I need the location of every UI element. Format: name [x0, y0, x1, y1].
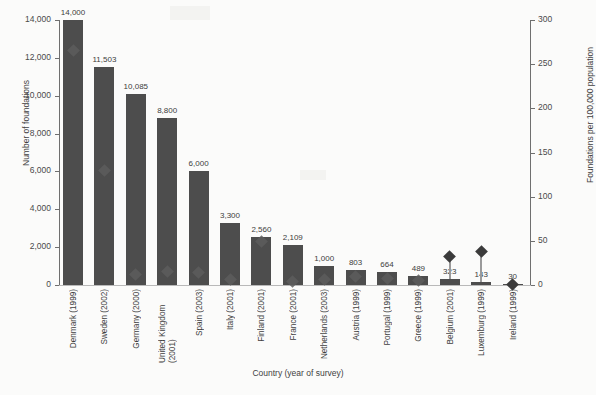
- left-tick-mark: [55, 209, 59, 210]
- left-tick-mark: [55, 58, 59, 59]
- bar-group[interactable]: 6,000: [186, 20, 212, 285]
- x-axis-tick-label: Portugal (1999): [383, 289, 393, 345]
- bar-value-label: 2,109: [272, 233, 314, 242]
- left-tick-mark: [55, 20, 59, 21]
- bar-value-label: 3,300: [209, 211, 251, 220]
- bar-group[interactable]: 489: [405, 20, 431, 285]
- bar-value-label: 11,503: [83, 55, 125, 64]
- chart-canvas: Number of foundations Foundations per 10…: [0, 0, 596, 395]
- left-tick-label: 4,000: [30, 204, 51, 213]
- bar[interactable]: [126, 94, 146, 285]
- right-tick-mark: [531, 241, 535, 242]
- x-axis-tick-label: Greece (1999): [414, 289, 424, 342]
- x-axis-tick-label: Germany (2000): [132, 289, 142, 349]
- right-axis-title: Foundations per 100,000 population: [585, 0, 595, 235]
- left-tick-label: 10,000: [25, 91, 51, 100]
- x-axis-tick-label: Austria (1999): [352, 289, 362, 340]
- right-tick-label: 250: [538, 59, 552, 68]
- x-axis-tick-label: Denmark (1999): [69, 289, 79, 348]
- x-axis-tick-label: Luxemburg (1999): [477, 289, 487, 356]
- x-axis-tick-label: Netherlands (2003): [320, 289, 330, 359]
- left-tick-mark: [55, 171, 59, 172]
- left-tick-label: 2,000: [30, 242, 51, 251]
- bar-group[interactable]: 803: [343, 20, 369, 285]
- x-axis-tick-label: Italy (2001): [226, 289, 236, 330]
- bar[interactable]: [157, 118, 177, 285]
- bar-value-label: 10,085: [115, 82, 157, 91]
- right-tick-label: 50: [538, 236, 547, 245]
- bar-group[interactable]: 2,109: [280, 20, 306, 285]
- bar-group[interactable]: 2,560: [248, 20, 274, 285]
- right-tick-mark: [531, 285, 535, 286]
- right-tick-label: 150: [538, 148, 552, 157]
- x-axis-tick-label: Belgium (2001): [446, 289, 456, 345]
- x-axis-tick-label: France (2001): [289, 289, 299, 340]
- left-tick-mark: [55, 285, 59, 286]
- marker-diamond[interactable]: [443, 250, 456, 263]
- left-tick-label: 6,000: [30, 166, 51, 175]
- plot-area: 14,00011,50310,0858,8006,0003,3002,5602,…: [60, 20, 530, 285]
- right-tick-mark: [531, 64, 535, 65]
- x-axis-title: Country (year of survey): [0, 368, 596, 378]
- bar-group[interactable]: 323: [437, 20, 463, 285]
- left-tick-mark: [55, 247, 59, 248]
- left-tick-mark: [55, 96, 59, 97]
- right-tick-mark: [531, 108, 535, 109]
- bar-group[interactable]: 10,085: [123, 20, 149, 285]
- bar-group[interactable]: 143: [468, 20, 494, 285]
- bar-group[interactable]: 11,503: [91, 20, 117, 285]
- bar-group[interactable]: 664: [374, 20, 400, 285]
- bar[interactable]: [440, 279, 460, 285]
- bar-value-label: 6,000: [178, 159, 220, 168]
- right-tick-label: 300: [538, 15, 552, 24]
- right-tick-mark: [531, 153, 535, 154]
- right-tick-label: 100: [538, 192, 552, 201]
- left-tick-label: 12,000: [25, 53, 51, 62]
- right-tick-label: 200: [538, 103, 552, 112]
- scan-artifact: [170, 6, 210, 20]
- left-tick-label: 0: [46, 280, 51, 289]
- left-tick-label: 14,000: [25, 15, 51, 24]
- x-axis-tick-label: United Kingdom (2001): [158, 289, 180, 363]
- x-axis-tick-label: Ireland (1999): [509, 289, 519, 340]
- bar-group[interactable]: 30: [500, 20, 526, 285]
- bar-value-label: 8,800: [146, 106, 188, 115]
- x-axis-tick-label: Spain (2003): [195, 289, 205, 336]
- bar-group[interactable]: 1,000: [311, 20, 337, 285]
- right-tick-mark: [531, 197, 535, 198]
- x-axis-tick-label: Finland (2001): [257, 289, 267, 342]
- right-tick-label: 0: [538, 280, 543, 289]
- bar[interactable]: [63, 20, 83, 285]
- bar-group[interactable]: 3,300: [217, 20, 243, 285]
- marker-diamond[interactable]: [475, 245, 488, 258]
- x-axis-tick-label: Sweden (2002): [100, 289, 110, 345]
- bar[interactable]: [471, 282, 491, 285]
- bar-value-label: 14,000: [52, 8, 94, 17]
- left-tick-label: 8,000: [30, 129, 51, 138]
- right-tick-mark: [531, 20, 535, 21]
- bar-group[interactable]: 14,000: [60, 20, 86, 285]
- bar-group[interactable]: 8,800: [154, 20, 180, 285]
- left-tick-mark: [55, 134, 59, 135]
